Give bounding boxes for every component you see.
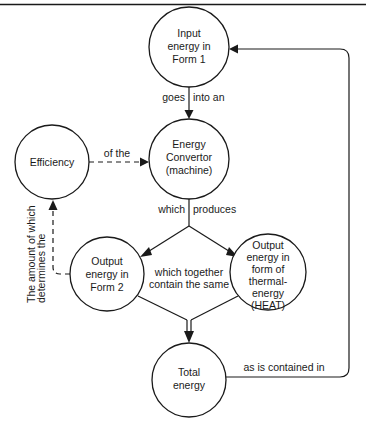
node-label-line: energy in — [85, 268, 128, 280]
edge-convertor-produces: which produces — [140, 199, 238, 257]
edge-total-to-input: as is contained in — [226, 45, 349, 378]
edge-label-contained-in: as is contained in — [243, 361, 324, 373]
edge-label-goes: goes — [162, 91, 185, 103]
edge-label-which: which — [157, 203, 185, 215]
edge-label-together-2: contain the same — [149, 278, 229, 290]
edge-label-together-1: which together — [154, 266, 224, 278]
edge-outputs-to-total: which together contain the same — [138, 266, 238, 343]
edge-output2-to-efficiency: The amount of which determines the — [25, 200, 70, 303]
node-label-line: energy — [252, 287, 285, 299]
node-label-line: energy — [173, 379, 206, 391]
node-label-line: (HEAT) — [251, 299, 285, 311]
node-label-line: Output — [252, 239, 284, 251]
arrowhead-icon — [140, 247, 152, 257]
edge-input-to-convertor: goes into an — [162, 87, 224, 119]
arrowhead-icon — [184, 331, 194, 343]
node-label-line: Output — [91, 255, 123, 267]
node-total-energy: Total energy — [152, 343, 226, 417]
node-input-energy: Input energy in Form 1 — [149, 7, 229, 87]
node-label-line: Convertor — [166, 151, 213, 163]
node-label-line: Form 2 — [90, 281, 123, 293]
energy-conversion-diagram: goes into an of the which produces which… — [0, 0, 366, 429]
node-efficiency: Efficiency — [15, 125, 89, 199]
arrowhead-icon — [49, 200, 58, 210]
edge-efficiency-to-convertor: of the — [89, 147, 149, 167]
arrowhead-icon — [229, 45, 238, 54]
arrowhead-icon — [140, 158, 149, 167]
node-label-line: Energy — [172, 138, 206, 150]
node-label-line: Input — [177, 27, 200, 39]
node-label-line: Form 1 — [172, 53, 205, 65]
node-label-line: thermal- — [249, 275, 288, 287]
edge-label-of-the: of the — [104, 147, 130, 159]
node-label-line: energy in — [246, 251, 289, 263]
node-label-line: Efficiency — [30, 156, 75, 168]
node-output-heat: Output energy in form of thermal- energy… — [230, 234, 306, 311]
node-output-form-2: Output energy in Form 2 — [70, 237, 144, 311]
edge-label-amount-2: determines the — [35, 233, 47, 303]
node-label-line: Total — [178, 366, 200, 378]
node-label-line: energy in — [167, 40, 210, 52]
node-energy-convertor: Energy Convertor (machine) — [149, 119, 229, 199]
edge-label-into-an: into an — [193, 91, 225, 103]
arrowhead-icon — [185, 110, 194, 119]
edge-label-produces: produces — [193, 203, 236, 215]
node-label-line: form of — [252, 263, 285, 275]
node-label-line: (machine) — [166, 164, 213, 176]
